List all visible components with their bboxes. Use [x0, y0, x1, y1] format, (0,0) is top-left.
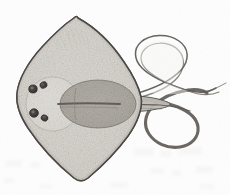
paper-grain-overlay [0, 0, 230, 195]
stingray-drawing-canvas [0, 0, 230, 195]
stingray-illustration-figure: Dorsal view pencil illustration of a ska… [0, 0, 230, 195]
